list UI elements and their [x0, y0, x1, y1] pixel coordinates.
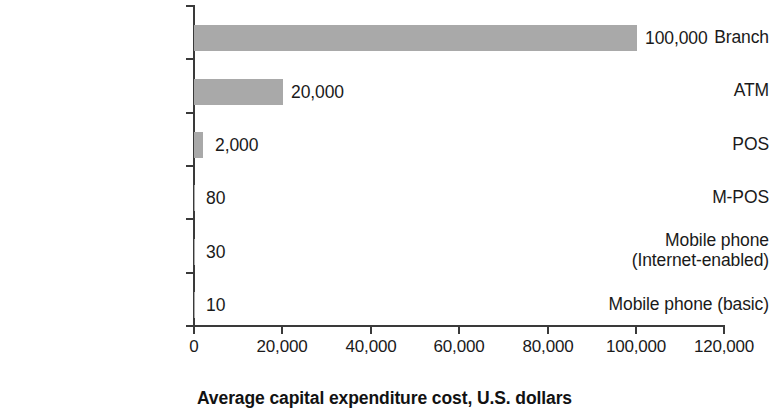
- y-axis-tick: [186, 272, 193, 274]
- bar-mobile-phone-basic: [194, 292, 195, 318]
- y-axis-tick: [186, 325, 193, 327]
- value-label-mobile-phone-internet-enabled: 30: [206, 239, 225, 265]
- x-axis-tick: [370, 327, 372, 334]
- x-axis-tick-label: 60,000: [434, 337, 485, 357]
- bar-m-pos: [194, 185, 195, 211]
- value-label-pos: 2,000: [215, 132, 258, 158]
- value-label-atm: 20,000: [291, 79, 344, 105]
- bar-pos: [194, 132, 203, 158]
- x-axis-tick-label: 100,000: [606, 337, 666, 357]
- value-label-mobile-phone-basic: 10: [206, 292, 225, 318]
- y-axis-line: [193, 5, 195, 326]
- x-axis-tick-label: 0: [189, 337, 198, 357]
- y-axis-tick: [186, 112, 193, 114]
- y-axis-tick: [186, 218, 193, 220]
- x-axis-tick-label: 80,000: [523, 337, 574, 357]
- value-label-branch: 100,000: [645, 25, 708, 51]
- x-axis-tick: [281, 327, 283, 334]
- x-axis-tick: [635, 327, 637, 334]
- x-axis-tick-label: 20,000: [257, 337, 308, 357]
- x-axis-tick: [547, 327, 549, 334]
- bar-branch: [194, 25, 637, 51]
- x-axis-tick-label: 40,000: [346, 337, 397, 357]
- bar-chart: Branch ATM POS M-POS Mobile phone (Inter…: [0, 0, 769, 413]
- y-axis-tick: [186, 5, 193, 7]
- y-axis-tick: [186, 165, 193, 167]
- x-axis-tick: [458, 327, 460, 334]
- bar-mobile-phone-internet-enabled: [194, 239, 195, 265]
- x-axis-tick-label: 120,000: [694, 337, 754, 357]
- y-axis-tick: [186, 58, 193, 60]
- x-axis-tick: [723, 327, 725, 334]
- plot-area: 100,000 20,000 2,000 80 30 10 0 20,000 4…: [193, 5, 724, 325]
- bar-atm: [194, 79, 283, 105]
- value-label-m-pos: 80: [206, 185, 225, 211]
- x-axis-tick: [193, 327, 195, 334]
- x-axis-title: Average capital expenditure cost, U.S. d…: [0, 388, 769, 409]
